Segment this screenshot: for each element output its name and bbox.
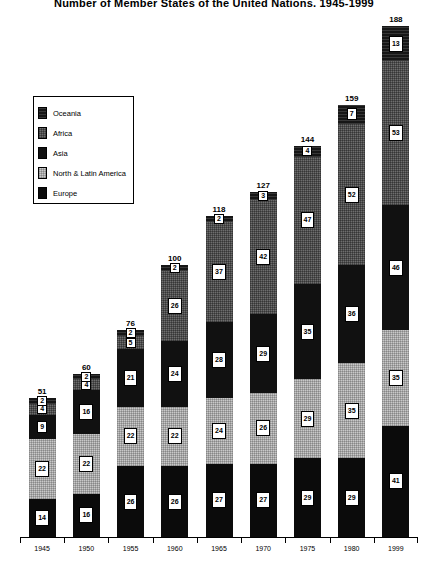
bar-segment[interactable]: 35 xyxy=(382,330,409,425)
chart-title: Number of Member States of the United Na… xyxy=(0,0,428,7)
bar-group[interactable]: 4135465313188 xyxy=(382,26,409,537)
bar-group[interactable]: 293536527159 xyxy=(338,105,365,537)
bar-segment-value: 22 xyxy=(124,428,138,444)
plot-area: 1422942511622164260262221527626222426210… xyxy=(20,14,418,538)
legend-label-oceania: Oceania xyxy=(53,109,81,118)
legend: Oceania Africa Asia North & Latin Americ… xyxy=(33,96,134,204)
bar-segment[interactable]: 14 xyxy=(29,499,56,537)
bar-segment[interactable]: 22 xyxy=(29,439,56,499)
bar-segment-value: 4 xyxy=(302,146,312,156)
bar-segment[interactable]: 16 xyxy=(73,390,100,433)
bar-segment-value: 22 xyxy=(168,428,182,444)
bar-segment-value: 35 xyxy=(301,324,315,340)
x-axis-tick xyxy=(108,538,109,543)
bar-segment[interactable]: 52 xyxy=(338,124,365,265)
bar-segment[interactable]: 24 xyxy=(206,398,233,463)
bar-segment[interactable]: 41 xyxy=(382,426,409,537)
x-axis-tick xyxy=(330,538,331,543)
bar-total-value: 159 xyxy=(345,94,358,103)
bar-segment[interactable]: 27 xyxy=(206,464,233,537)
bar-group[interactable]: 272428372118 xyxy=(206,216,233,537)
x-axis-tick xyxy=(241,538,242,543)
bar-segment[interactable]: 29 xyxy=(338,458,365,537)
legend-label-africa: Africa xyxy=(53,129,72,138)
bar-segment-value: 29 xyxy=(256,346,270,362)
x-axis-tick xyxy=(417,538,418,543)
bar-segment[interactable]: 29 xyxy=(294,379,321,458)
bar-segment-value: 53 xyxy=(389,125,403,141)
bar-segment[interactable]: 7 xyxy=(338,105,365,124)
bar-segment[interactable]: 9 xyxy=(29,415,56,439)
bar-group[interactable]: 2622215276 xyxy=(117,330,144,537)
bar-segment-value: 2 xyxy=(81,372,91,382)
bar-segment[interactable]: 36 xyxy=(338,265,365,363)
bar-segment-value: 42 xyxy=(256,249,270,265)
bar-segment-value: 2 xyxy=(214,214,224,224)
bar-segment[interactable]: 4 xyxy=(294,146,321,157)
bar-segment[interactable]: 24 xyxy=(161,341,188,406)
bar-segment-value: 26 xyxy=(124,494,138,510)
bar-segment[interactable]: 13 xyxy=(382,26,409,61)
bar-segment[interactable]: 42 xyxy=(250,200,277,314)
bar-segment-value: 35 xyxy=(345,403,359,419)
bar-segment[interactable]: 27 xyxy=(250,464,277,537)
bar-group[interactable]: 292935474144 xyxy=(294,146,321,537)
bar-segment[interactable]: 26 xyxy=(117,466,144,537)
x-axis-tick xyxy=(64,538,65,543)
legend-label-europe: Europe xyxy=(53,189,77,198)
x-axis: 194519501955196019651970197519801999 xyxy=(20,538,418,566)
legend-swatch-asia-icon xyxy=(38,147,47,159)
bar-group[interactable]: 1622164260 xyxy=(73,374,100,537)
x-axis-label: 1960 xyxy=(167,545,183,553)
bar-total-value: 127 xyxy=(257,181,270,190)
bar-segment-value: 7 xyxy=(347,108,357,120)
bar-segment[interactable]: 2 xyxy=(161,265,188,270)
bar-segment[interactable]: 22 xyxy=(73,434,100,494)
bar-segment[interactable]: 2 xyxy=(117,330,144,335)
bar-segment[interactable]: 2 xyxy=(206,216,233,221)
legend-item-asia: Asia xyxy=(38,143,133,163)
x-axis-tick xyxy=(285,538,286,543)
bar-total-value: 100 xyxy=(168,254,181,263)
bar-segment-value: 28 xyxy=(212,352,226,368)
bar-segment-value: 3 xyxy=(258,191,268,201)
bar-total-value: 188 xyxy=(389,15,402,24)
bar-segment[interactable]: 35 xyxy=(294,284,321,379)
bar-group[interactable]: 142294251 xyxy=(29,398,56,537)
bar-segment[interactable]: 46 xyxy=(382,205,409,330)
legend-label-north-latin-america: North & Latin America xyxy=(53,169,126,178)
legend-item-oceania: Oceania xyxy=(38,103,133,123)
x-axis-tick xyxy=(153,538,154,543)
bar-segment[interactable]: 47 xyxy=(294,157,321,285)
bar-segment[interactable]: 22 xyxy=(117,407,144,467)
bar-segment[interactable]: 29 xyxy=(294,458,321,537)
bar-segment[interactable]: 26 xyxy=(250,393,277,464)
bar-segment[interactable]: 2 xyxy=(29,398,56,403)
bar-segment[interactable]: 26 xyxy=(161,271,188,342)
bar-segment-value: 36 xyxy=(345,306,359,322)
legend-swatch-north-latin-america-icon xyxy=(38,167,47,179)
bar-segment-value: 29 xyxy=(301,490,315,506)
bar-segment-value: 14 xyxy=(35,510,49,526)
bar-segment-value: 29 xyxy=(301,411,315,427)
bar-total-value: 76 xyxy=(126,319,135,328)
legend-swatch-africa-icon xyxy=(38,127,47,139)
bar-series-container: 1422942511622164260262221527626222426210… xyxy=(20,14,418,537)
bar-total-value: 60 xyxy=(82,363,91,372)
bar-segment[interactable]: 53 xyxy=(382,61,409,205)
bar-segment[interactable]: 28 xyxy=(206,322,233,398)
x-axis-label: 1965 xyxy=(211,545,227,553)
bar-group[interactable]: 262224262100 xyxy=(161,265,188,537)
bar-segment[interactable]: 26 xyxy=(161,466,188,537)
bar-segment-value: 2 xyxy=(170,263,180,273)
bar-segment[interactable]: 21 xyxy=(117,349,144,406)
bar-group[interactable]: 272629423127 xyxy=(250,192,277,537)
bar-segment[interactable]: 35 xyxy=(338,363,365,458)
bar-segment[interactable]: 16 xyxy=(73,494,100,537)
legend-item-africa: Africa xyxy=(38,123,133,143)
bar-segment[interactable]: 2 xyxy=(73,374,100,379)
bar-segment[interactable]: 3 xyxy=(250,192,277,200)
bar-segment[interactable]: 22 xyxy=(161,407,188,467)
bar-segment[interactable]: 29 xyxy=(250,314,277,393)
bar-segment[interactable]: 37 xyxy=(206,222,233,323)
